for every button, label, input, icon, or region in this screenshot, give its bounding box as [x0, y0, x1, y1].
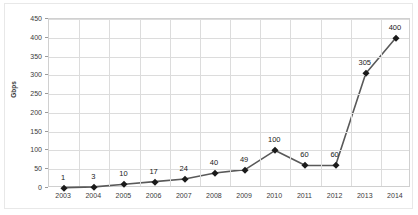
gridline-horizontal: [49, 57, 409, 58]
gridline-vertical: [351, 19, 352, 186]
data-point-label: 400: [380, 24, 410, 32]
gridline-horizontal: [49, 94, 409, 95]
gridline-vertical: [170, 19, 171, 186]
gridline-vertical: [290, 19, 291, 186]
x-axis-tick-label: 2013: [350, 192, 380, 200]
data-point-label: 3: [78, 173, 108, 181]
y-axis-tick-mark: [45, 93, 48, 94]
gridline-horizontal: [49, 75, 409, 76]
gridline-vertical: [321, 19, 322, 186]
y-axis-tick-mark: [45, 149, 48, 150]
chart-figure: Gbps 05010015020025030035040045012003320…: [0, 0, 418, 215]
data-point-label: 40: [199, 159, 229, 167]
x-axis-tick-label: 2006: [139, 192, 169, 200]
x-axis-tick-label: 2004: [78, 192, 108, 200]
y-axis-tick-label: 100: [0, 146, 42, 153]
y-axis-tick-mark: [45, 187, 48, 188]
gridline-vertical: [260, 19, 261, 186]
y-axis-tick-label: 250: [0, 90, 42, 97]
y-axis-tick-label: 400: [0, 33, 42, 40]
x-axis-tick-label: 2005: [108, 192, 138, 200]
gridline-horizontal: [49, 113, 409, 114]
data-point-label: 1: [48, 174, 78, 182]
x-axis-tick-label: 2007: [169, 192, 199, 200]
y-axis-tick-label: 450: [0, 15, 42, 22]
gridline-horizontal: [49, 150, 409, 151]
gridline-horizontal: [49, 132, 409, 133]
data-point-label: 10: [108, 170, 138, 178]
x-axis-tick-label: 2014: [380, 192, 410, 200]
x-axis-tick-label: 2008: [199, 192, 229, 200]
y-axis-tick-mark: [45, 112, 48, 113]
gridline-vertical: [381, 19, 382, 186]
data-point-label: 60: [320, 151, 350, 159]
gridline-vertical: [79, 19, 80, 186]
data-point-label: 100: [259, 136, 289, 144]
y-axis-tick-label: 200: [0, 108, 42, 115]
data-point-label: 305: [350, 59, 380, 67]
x-axis-tick-label: 2009: [229, 192, 259, 200]
data-point-label: 49: [229, 156, 259, 164]
gridline-horizontal: [49, 169, 409, 170]
x-axis-tick-label: 2003: [48, 192, 78, 200]
y-axis-tick-label: 350: [0, 52, 42, 59]
x-axis-tick-label: 2010: [259, 192, 289, 200]
data-point-label: 24: [169, 165, 199, 173]
gridline-vertical: [140, 19, 141, 186]
gridline-vertical: [109, 19, 110, 186]
y-axis-tick-label: 150: [0, 127, 42, 134]
x-axis-tick-label: 2012: [320, 192, 350, 200]
data-point-label: 17: [139, 168, 169, 176]
gridline-horizontal: [49, 38, 409, 39]
y-axis-tick-label: 50: [0, 165, 42, 172]
y-axis-tick-mark: [45, 74, 48, 75]
gridline-horizontal: [49, 19, 409, 20]
y-axis-tick-label: 300: [0, 71, 42, 78]
y-axis-tick-mark: [45, 131, 48, 132]
y-axis-tick-mark: [45, 37, 48, 38]
data-point-label: 60: [289, 151, 319, 159]
y-axis-tick-mark: [45, 168, 48, 169]
y-axis-tick-mark: [45, 18, 48, 19]
y-axis-tick-label: 0: [0, 184, 42, 191]
x-axis-tick-label: 2011: [289, 192, 319, 200]
y-axis-tick-mark: [45, 56, 48, 57]
